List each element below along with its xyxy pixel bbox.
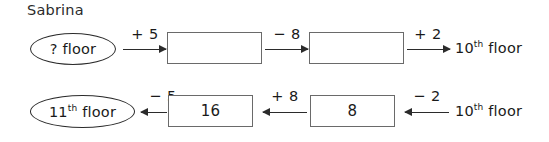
row-bottom-step-3-arrow bbox=[141, 112, 167, 113]
row-top-step-1-operation: + 5 bbox=[122, 26, 168, 42]
row-top-answer-box-2[interactable] bbox=[309, 32, 404, 64]
row-bottom-step-2-arrow bbox=[263, 112, 307, 113]
row-top-start-oval: ? floor bbox=[30, 33, 116, 65]
row-bottom-answer-box-2-value: 16 bbox=[201, 102, 221, 120]
arrow-head-icon bbox=[301, 45, 309, 53]
row-top-step-1-arrow bbox=[123, 49, 166, 50]
row-bottom-start-label: 10th floor bbox=[455, 103, 522, 119]
row-bottom-step-1-arrow bbox=[405, 112, 449, 113]
row-bottom-end-number: 11 bbox=[49, 104, 68, 120]
row-bottom-answer-box-1-value: 8 bbox=[348, 102, 358, 120]
row-bottom-start-suffix: floor bbox=[484, 103, 523, 119]
row-bottom-end-oval[interactable]: 11th floor bbox=[30, 95, 135, 128]
row-top-start-label: ? floor bbox=[50, 41, 97, 57]
row-bottom-end-ordinal: th bbox=[68, 103, 78, 113]
arrow-head-icon bbox=[140, 108, 148, 116]
row-bottom-answer-box-1[interactable]: 8 bbox=[310, 95, 395, 127]
row-top-end-label: 10th floor bbox=[455, 40, 522, 56]
row-top-end-suffix: floor bbox=[484, 40, 523, 56]
arrow-head-icon bbox=[443, 45, 451, 53]
row-top-answer-box-1[interactable] bbox=[167, 32, 262, 64]
row-top-end-number: 10 bbox=[455, 40, 474, 56]
row-top-step-2-operation: − 8 bbox=[265, 26, 309, 42]
row-top-end-ordinal: th bbox=[474, 39, 484, 49]
row-bottom-end-label: 11th floor bbox=[49, 104, 116, 120]
student-name-heading: Sabrina bbox=[27, 2, 84, 18]
worksheet-canvas: Sabrina ? floor + 5 − 8 + 2 10th floor 1… bbox=[0, 0, 549, 142]
row-bottom-answer-box-2[interactable]: 16 bbox=[168, 95, 253, 127]
row-bottom-step-2-operation: + 8 bbox=[262, 88, 308, 104]
row-top-step-2-arrow bbox=[265, 49, 308, 50]
row-bottom-end-suffix: floor bbox=[77, 104, 116, 120]
arrow-head-icon bbox=[404, 108, 412, 116]
arrow-head-icon bbox=[159, 45, 167, 53]
row-bottom-start-ordinal: th bbox=[474, 102, 484, 112]
row-bottom-step-1-operation: − 2 bbox=[404, 88, 450, 104]
row-top-step-3-operation: + 2 bbox=[406, 26, 450, 42]
row-top-step-3-arrow bbox=[407, 49, 450, 50]
arrow-head-icon bbox=[262, 108, 270, 116]
row-bottom-start-number: 10 bbox=[455, 103, 474, 119]
